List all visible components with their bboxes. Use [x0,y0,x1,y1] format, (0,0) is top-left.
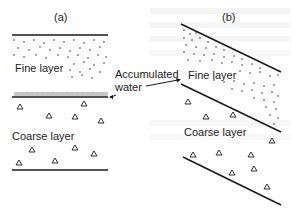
panel-a-fine-layer-label: Fine layer [15,62,64,74]
triangle-icon [91,151,97,156]
panel-b-label: (b) [222,11,235,23]
triangle-icon [52,158,58,163]
accumulated-water-annotation: Accumulated water [109,68,181,99]
arrowhead-a-icon [109,95,113,99]
panel-b-fine-layer-label: Fine layer [188,69,237,81]
panel-a: (a) Fine layer [12,11,108,170]
triangle-icon [230,112,236,117]
triangle-icon [72,145,78,150]
triangle-icon [72,114,78,119]
triangle-icon [251,166,257,171]
layered-soil-diagram: (a) Fine layer [0,0,292,214]
triangle-icon [16,160,22,165]
triangle-icon [248,152,254,157]
triangle-icon [185,99,191,104]
triangle-icon [264,184,270,189]
triangle-icon [229,170,235,175]
triangle-icon [98,118,104,123]
panel-b-coarse-layer-label: Coarse layer [184,126,247,138]
annotation-line1: Accumulated [115,68,179,80]
panel-a-accumulated-water [14,92,108,96]
panel-b-coarse-bottom-boundary [183,157,281,205]
annotation-line2: water [114,81,142,93]
triangle-icon [46,113,52,118]
panel-b-coarse-particles [185,99,275,189]
triangle-icon [29,147,35,152]
triangle-icon [17,104,23,109]
panel-b-fine-top-boundary [181,24,281,72]
triangle-icon [216,150,222,155]
triangle-icon [203,114,209,119]
panel-a-label: (a) [54,11,67,23]
triangle-icon [81,101,87,106]
triangle-icon [190,152,196,157]
arrow-to-panel-b-icon [146,80,178,86]
panel-a-coarse-layer-label: Coarse layer [12,130,75,142]
